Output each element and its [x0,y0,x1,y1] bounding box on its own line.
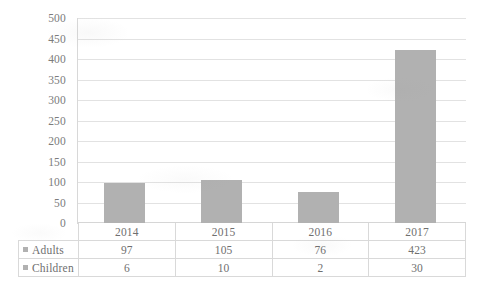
y-tick-label-250: 250 [0,115,66,127]
cell-adults-2016: 76 [272,241,369,259]
cell-adults-2014: 97 [79,241,176,259]
y-tick-label-200: 200 [0,135,66,147]
y-tick-label-100: 100 [0,176,66,188]
table-corner-cell [19,223,79,241]
legend-key-icon-adults [23,247,28,252]
y-tick-label-150: 150 [0,156,66,168]
bar-adults-2017 [395,50,436,223]
category-label-2014: 2014 [79,223,176,241]
gridline-500 [78,18,466,19]
bar-chart-with-data-table: 500 450 400 350 300 250 200 150 100 50 0 [0,0,488,299]
data-table: 2014 2015 2016 2017 Adults 97 105 76 423… [18,223,466,277]
gridline-450 [78,39,466,40]
table-row-categories: 2014 2015 2016 2017 [19,223,466,241]
y-tick-label-50: 50 [0,197,66,209]
bar-adults-2015 [201,180,242,223]
cell-adults-2017: 423 [369,241,466,259]
cell-children-2015: 10 [175,259,272,277]
bar-adults-2016 [298,192,339,223]
table-row-children: Children 6 10 2 30 [19,259,466,277]
y-tick-label-400: 400 [0,53,66,65]
series-label-children-text: Children [32,262,74,274]
table-row-adults: Adults 97 105 76 423 [19,241,466,259]
category-label-2016: 2016 [272,223,369,241]
category-label-2015: 2015 [175,223,272,241]
cell-children-2014: 6 [79,259,176,277]
series-label-adults-text: Adults [32,244,64,256]
cell-children-2016: 2 [272,259,369,277]
series-label-children: Children [19,259,79,277]
y-tick-label-450: 450 [0,33,66,45]
y-axis-labels: 500 450 400 350 300 250 200 150 100 50 0 [0,18,70,223]
bar-adults-2014 [104,183,145,223]
cell-children-2017: 30 [369,259,466,277]
y-tick-label-500: 500 [0,12,66,24]
legend-key-icon-children [23,265,28,270]
series-label-adults: Adults [19,241,79,259]
y-tick-label-350: 350 [0,74,66,86]
cell-adults-2015: 105 [175,241,272,259]
category-label-2017: 2017 [369,223,466,241]
plot-area [78,18,466,223]
y-tick-label-300: 300 [0,94,66,106]
